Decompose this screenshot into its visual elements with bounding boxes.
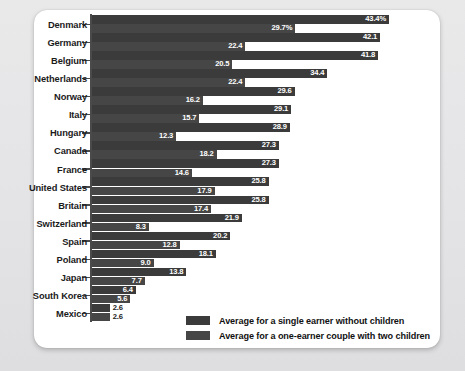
category-label: Canada — [0, 146, 87, 156]
bar-value-label: 5.6 — [92, 295, 130, 304]
bar-value-label: 14.6 — [92, 169, 192, 178]
category-label: South Korea — [0, 291, 87, 301]
category-label: Japan — [0, 273, 87, 283]
category-label: Denmark — [0, 20, 87, 30]
category-label: Mexico — [0, 309, 87, 319]
bar-value-label: 18.1 — [92, 250, 216, 259]
category-label: Switzerland — [0, 219, 87, 229]
bar-value-label: 17.4 — [92, 205, 211, 214]
legend-label-one-earner-couple: Average for a one-earner couple with two… — [219, 331, 430, 341]
bar-value-label: 34.4 — [92, 69, 327, 78]
category-label: United States — [0, 183, 87, 193]
category-label: Poland — [0, 255, 87, 265]
category-label: France — [0, 165, 87, 175]
legend-item-single-earner: Average for a single earner without chil… — [186, 313, 436, 328]
chart-legend: Average for a single earner without chil… — [186, 313, 436, 343]
bar-value-label: 15.7 — [92, 114, 199, 123]
bar-single-earner — [92, 304, 110, 313]
category-label: Norway — [0, 92, 87, 102]
bar-value-label: 17.9 — [92, 187, 215, 196]
bar-value-label: 27.3 — [92, 159, 279, 168]
legend-label-single-earner: Average for a single earner without chil… — [219, 316, 404, 326]
category-label: Spain — [0, 237, 87, 247]
bar-value-label: 16.2 — [92, 96, 203, 105]
bar-value-label: 12.3 — [92, 132, 176, 141]
bar-value-label: 2.6 — [110, 313, 123, 322]
legend-swatch-one-earner-couple — [186, 331, 210, 340]
bar-value-label: 20.2 — [92, 232, 230, 241]
bar-value-label: 12.8 — [92, 241, 180, 250]
bar-value-label: 27.3 — [92, 141, 279, 150]
bar-value-label: 41.8 — [92, 51, 378, 60]
category-label: Netherlands — [0, 74, 87, 84]
legend-item-one-earner-couple: Average for a one-earner couple with two… — [186, 328, 436, 343]
category-label: Germany — [0, 38, 87, 48]
bar-value-label: 13.8 — [92, 268, 186, 277]
bar-value-label: 21.9 — [92, 214, 242, 223]
category-label: Hungary — [0, 128, 87, 138]
bar-value-label: 22.4 — [92, 42, 245, 51]
bar-value-label: 7.7 — [92, 277, 145, 286]
bar-value-label: 25.8 — [92, 196, 269, 205]
bar-value-label: 22.4 — [92, 78, 245, 87]
category-label: Britain — [0, 201, 87, 211]
bar-one-earner-couple — [92, 313, 110, 322]
bar-value-label: 20.5 — [92, 60, 232, 69]
bar-value-label: 9.0 — [92, 259, 154, 268]
category-label: Italy — [0, 110, 87, 120]
bar-value-label: 29.7% — [92, 24, 295, 33]
bar-value-label: 25.8 — [92, 177, 269, 186]
bar-value-label: 43.4% — [92, 15, 389, 24]
bar-value-label: 6.4 — [92, 286, 136, 295]
bar-value-label: 28.9 — [92, 123, 290, 132]
legend-swatch-single-earner — [186, 316, 210, 325]
bar-value-label: 18.2 — [92, 150, 217, 159]
category-label: Belgium — [0, 56, 87, 66]
bar-value-label: 8.3 — [92, 223, 149, 232]
